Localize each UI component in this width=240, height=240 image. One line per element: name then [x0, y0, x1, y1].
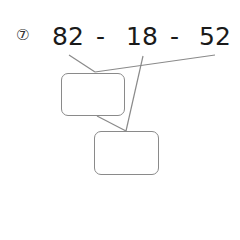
connector-box1-to-box2	[97, 116, 126, 131]
answer-box-2[interactable]	[94, 131, 159, 175]
answer-box-1[interactable]	[61, 73, 125, 116]
connector-82-to-box1	[69, 55, 95, 72]
connector-52-to-box1	[95, 55, 215, 72]
